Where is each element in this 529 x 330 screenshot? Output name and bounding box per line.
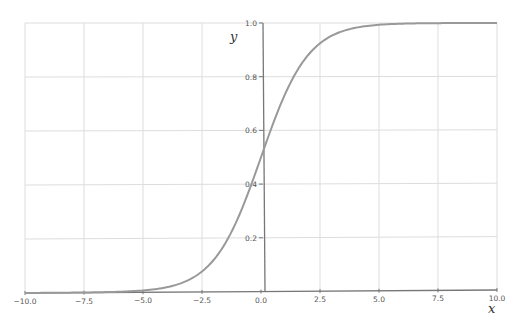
x-axis-label: x	[488, 301, 496, 316]
y-axis-line	[263, 23, 265, 291]
sigmoid-chart: −10.0−7.5−5.0−2.50.02.55.07.510.00.20.40…	[0, 0, 529, 330]
x-tick-label: 2.5	[314, 295, 326, 304]
sigmoid-curve	[25, 23, 497, 293]
x-tick-label: −10.0	[14, 297, 37, 306]
x-tick-label: −5.0	[134, 296, 152, 305]
x-tick-label: 5.0	[373, 295, 385, 304]
y-axis-label: y	[229, 29, 238, 44]
x-tick-label: −7.5	[75, 297, 93, 306]
y-tick-label: 1.0	[245, 19, 257, 28]
x-tick-label: −2.5	[193, 296, 211, 305]
y-tick-label: 0.8	[245, 73, 257, 82]
y-tick-label: 0.2	[245, 234, 257, 243]
x-tick-label: 7.5	[432, 294, 444, 303]
x-tick-label: 0.0	[255, 296, 267, 305]
y-tick-label: 0.6	[245, 126, 257, 135]
